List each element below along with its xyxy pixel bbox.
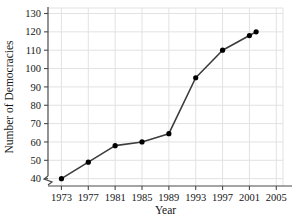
x-axis-tick-label: 1981 [105,192,126,203]
data-point-marker [193,75,198,80]
data-point-marker [139,139,144,144]
x-axis-title: Year [155,204,176,216]
y-axis-break-icon [44,176,52,185]
y-axis-tick-label: 50 [31,155,42,166]
y-axis-tick-label: 90 [31,82,42,93]
x-axis-tick-label: 1993 [185,192,206,203]
data-point-marker [113,143,118,148]
y-axis-tick-label: 70 [31,118,42,129]
data-point-marker [59,176,64,181]
chart-canvas: 4050607080901001101201301973197719811985… [0,0,297,220]
x-axis-tick-label: 1977 [78,192,99,203]
data-point-marker [220,48,225,53]
x-axis-tick-label: 1997 [212,192,233,203]
x-axis-tick-label: 2005 [266,192,287,203]
data-point-marker [86,160,91,165]
x-axis-tick-label: 1973 [51,192,72,203]
data-point-marker [247,33,252,38]
y-axis-tick-label: 40 [31,173,42,184]
line-chart-figure: 4050607080901001101201301973197719811985… [0,0,297,220]
y-axis-tick-label: 100 [25,63,41,74]
data-point-marker [254,29,259,34]
y-axis-tick-label: 80 [31,100,42,111]
x-axis-tick-label: 1985 [132,192,153,203]
y-axis-tick-label: 120 [25,26,41,37]
x-axis-tick-label: 1989 [158,192,179,203]
y-axis-title: Number of Democracies [3,40,15,154]
y-axis-tick-label: 60 [31,137,42,148]
data-point-marker [166,131,171,136]
y-axis-tick-label: 130 [25,8,41,19]
x-axis-tick-label: 2001 [239,192,260,203]
y-axis-tick-label: 110 [26,45,41,56]
